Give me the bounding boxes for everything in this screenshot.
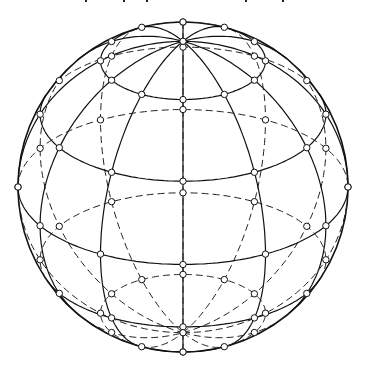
grid-node: [180, 190, 186, 196]
grid-node: [108, 199, 114, 205]
grid-node: [139, 344, 145, 350]
grid-node: [304, 290, 310, 296]
grid-node: [97, 251, 103, 257]
outline-node: [345, 184, 351, 190]
grid-node: [108, 77, 114, 83]
grid-node: [56, 290, 62, 296]
grid-node: [108, 291, 114, 297]
grid-node: [251, 38, 257, 44]
grid-node: [180, 178, 186, 184]
meridian-line: [140, 333, 183, 348]
grid-node: [251, 53, 257, 59]
grid-node: [251, 169, 257, 175]
grid-node: [56, 223, 62, 229]
grid-node: [251, 291, 257, 297]
grid-node: [304, 77, 310, 83]
grid-node: [139, 24, 145, 30]
parallel-line: [183, 93, 326, 181]
grid-node: [251, 329, 257, 335]
grid-node: [221, 344, 227, 350]
grid-node: [180, 106, 186, 112]
grid-node: [37, 145, 43, 151]
grid-node: [323, 145, 329, 151]
grid-node: [323, 111, 329, 117]
grid-node: [251, 315, 257, 321]
meridian-line: [183, 28, 266, 333]
parallel-line: [40, 95, 183, 181]
grid-node: [97, 58, 103, 64]
grid-node: [251, 199, 257, 205]
grid-node: [139, 276, 145, 282]
grid-node: [262, 251, 268, 257]
outline-node: [15, 184, 21, 190]
pole-node: [180, 330, 186, 336]
grid-node: [108, 169, 114, 175]
grid-node: [108, 38, 114, 44]
grid-node: [97, 310, 103, 316]
grid-node: [221, 91, 227, 97]
meridian-line: [40, 36, 287, 315]
grid-node: [304, 223, 310, 229]
grid-node: [108, 53, 114, 59]
grid-node: [262, 58, 268, 64]
outline-node: [180, 349, 186, 355]
grid-node: [304, 145, 310, 151]
grid-node: [221, 276, 227, 282]
grid-node: [180, 271, 186, 277]
grid-node: [139, 91, 145, 97]
pole-node: [180, 38, 186, 44]
grid-node: [262, 117, 268, 123]
grid-node: [37, 111, 43, 117]
grid-node: [108, 315, 114, 321]
grid-node: [56, 145, 62, 151]
grid-node: [251, 77, 257, 83]
grid-node: [323, 257, 329, 263]
grid-node: [323, 223, 329, 229]
grid-node: [97, 117, 103, 123]
grid-node: [37, 223, 43, 229]
grid-node: [262, 310, 268, 316]
grid-node: [37, 257, 43, 263]
outline-node: [180, 19, 186, 25]
meridian-line: [138, 27, 265, 346]
grid-node: [221, 24, 227, 30]
grid-node: [180, 261, 186, 267]
sphere-diagram: [0, 0, 366, 370]
grid-node: [180, 96, 186, 102]
grid-lines: [18, 22, 348, 352]
grid-node: [56, 77, 62, 83]
grid-node: [108, 329, 114, 335]
